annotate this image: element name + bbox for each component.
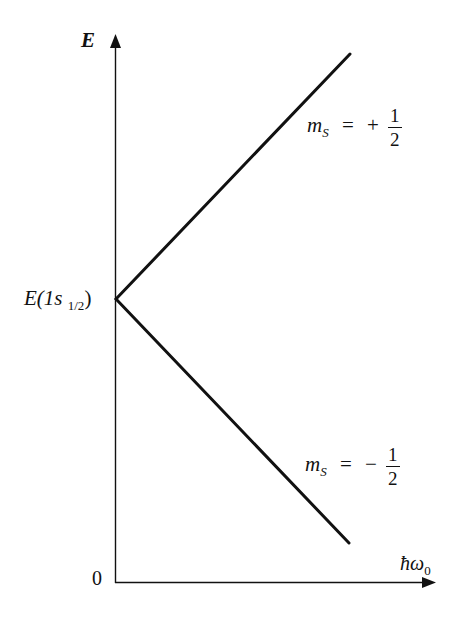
level-label-subscript: 1/2 (68, 298, 85, 313)
x-axis-label: ħω0 (400, 552, 431, 575)
origin-label: 0 (92, 567, 102, 590)
fraction-bar (388, 127, 402, 128)
y-axis-label: E (81, 28, 95, 53)
lower-label-fraction: 1 2 (386, 445, 400, 488)
level-label: E(1s 1/2) (24, 286, 91, 311)
upper-label-var: m (307, 113, 322, 137)
lower-line-label: mS = − 1 2 (305, 445, 400, 488)
lower-label-var: m (305, 452, 320, 476)
upper-label-numerator: 1 (388, 106, 402, 125)
lower-label-sign: − (365, 452, 377, 476)
fraction-bar (386, 466, 400, 467)
x-axis-arrow-icon (422, 577, 436, 588)
upper-label-fraction: 1 2 (388, 106, 402, 149)
upper-label-denominator: 2 (388, 130, 402, 149)
x-axis-label-subscript: 0 (424, 563, 431, 578)
upper-label-eq: = (342, 113, 354, 137)
lower-label-eq: = (340, 452, 352, 476)
lower-level-line (116, 299, 349, 543)
lower-label-denominator: 2 (386, 469, 400, 488)
upper-line-label: mS = + 1 2 (307, 106, 402, 149)
lower-label-sub: S (320, 464, 327, 479)
y-axis-arrow-icon (110, 34, 121, 48)
upper-level-line (116, 54, 350, 299)
lower-label-numerator: 1 (386, 445, 400, 464)
level-label-main: E(1s (24, 286, 63, 310)
level-label-close: ) (84, 286, 91, 310)
x-axis-label-main: ħω (400, 552, 424, 574)
upper-label-sign: + (367, 113, 379, 137)
upper-label-sub: S (322, 125, 329, 140)
